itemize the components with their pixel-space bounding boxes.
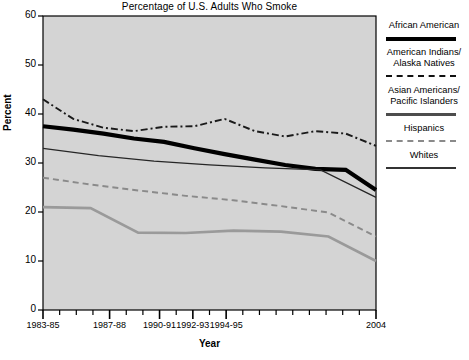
chart-legend: African AmericanAmerican Indians/Alaska … bbox=[380, 20, 468, 177]
x-tick-label: 1994-95 bbox=[197, 320, 255, 330]
legend-label: American Indians/ bbox=[380, 47, 468, 58]
y-tick-label: 0 bbox=[10, 303, 36, 314]
legend-label: Whites bbox=[380, 150, 468, 161]
legend-label: Asian Americans/ bbox=[380, 85, 468, 96]
y-tick-label: 40 bbox=[10, 107, 36, 118]
y-tick-label: 20 bbox=[10, 205, 36, 216]
legend-label: African American bbox=[380, 20, 468, 31]
legend-swatch bbox=[380, 107, 468, 121]
legend-swatch bbox=[380, 134, 468, 148]
legend-swatch bbox=[380, 69, 468, 83]
legend-label: Hispanics bbox=[380, 123, 468, 134]
legend-line-sample bbox=[386, 113, 456, 116]
legend-entry[interactable]: Hispanics bbox=[380, 123, 468, 148]
y-tick-label: 30 bbox=[10, 156, 36, 167]
legend-label: Pacific Islanders bbox=[380, 96, 468, 107]
x-tick-label: 1983-85 bbox=[14, 320, 72, 330]
legend-entry[interactable]: African American bbox=[380, 20, 468, 45]
y-tick-label: 10 bbox=[10, 254, 36, 265]
legend-line-sample bbox=[386, 75, 456, 77]
y-tick-label: 60 bbox=[10, 9, 36, 20]
legend-swatch bbox=[380, 31, 468, 45]
legend-swatch bbox=[380, 161, 468, 175]
legend-line-sample bbox=[386, 167, 456, 169]
legend-line-sample bbox=[386, 37, 456, 41]
chart-figure: Percentage of U.S. Adults Who Smoke Perc… bbox=[0, 0, 469, 360]
plot-background bbox=[43, 16, 376, 310]
legend-entry[interactable]: Asian Americans/Pacific Islanders bbox=[380, 85, 468, 121]
legend-entry[interactable]: American Indians/Alaska Natives bbox=[380, 47, 468, 83]
y-tick-label: 50 bbox=[10, 58, 36, 69]
legend-line-sample bbox=[386, 140, 456, 142]
legend-label: Alaska Natives bbox=[380, 58, 468, 69]
legend-entry[interactable]: Whites bbox=[380, 150, 468, 175]
x-tick-label: 2004 bbox=[347, 320, 405, 330]
